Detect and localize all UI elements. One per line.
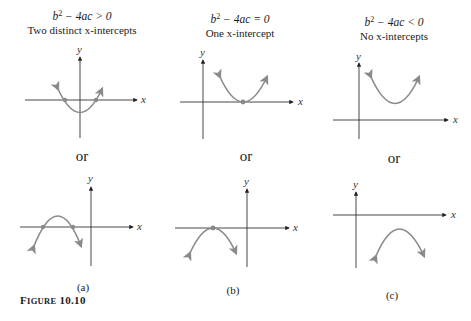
y-axis-label: y	[355, 50, 361, 62]
intercept-point	[41, 225, 45, 229]
x-axis-label: x	[140, 93, 146, 105]
intercept-point	[71, 225, 75, 229]
x-axis-label: x	[292, 221, 298, 233]
graph-c-downward: x y	[333, 178, 456, 268]
parabola	[376, 229, 424, 256]
parabola	[220, 77, 267, 102]
x-axis-label: x	[136, 220, 142, 232]
parabola	[371, 77, 419, 104]
graph-b-upward: x y	[180, 46, 303, 139]
parabola	[34, 216, 81, 246]
intercept-point	[63, 98, 67, 102]
vertex-point	[241, 100, 246, 105]
parabola-graphs: x y x y x y x y x y	[0, 0, 471, 321]
intercept-point	[94, 98, 98, 102]
y-axis-label: y	[76, 43, 82, 55]
parabola	[190, 228, 236, 253]
graph-b-downward: x y	[175, 175, 298, 267]
graph-a-upward: x y	[25, 43, 146, 138]
y-axis-label: y	[243, 175, 249, 187]
x-axis-label: x	[450, 208, 456, 220]
graph-a-downward: x y	[20, 172, 142, 266]
x-axis-label: x	[452, 113, 458, 125]
y-axis-label: y	[352, 178, 358, 190]
y-axis-label: y	[199, 46, 205, 58]
y-axis-label: y	[87, 172, 93, 184]
vertex-point	[211, 226, 216, 231]
graph-c-upward: x y	[333, 50, 458, 139]
x-axis-label: x	[297, 95, 303, 107]
